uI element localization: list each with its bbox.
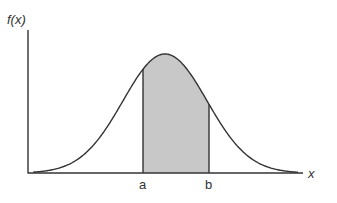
a-tick-label: a bbox=[139, 177, 147, 192]
b-tick-label: b bbox=[205, 177, 212, 192]
y-axis-label: f(x) bbox=[7, 12, 26, 27]
shaded-area-a-to-b bbox=[143, 54, 209, 173]
normal-distribution-chart: f(x) x a b bbox=[0, 0, 337, 203]
x-axis-label: x bbox=[307, 166, 315, 181]
